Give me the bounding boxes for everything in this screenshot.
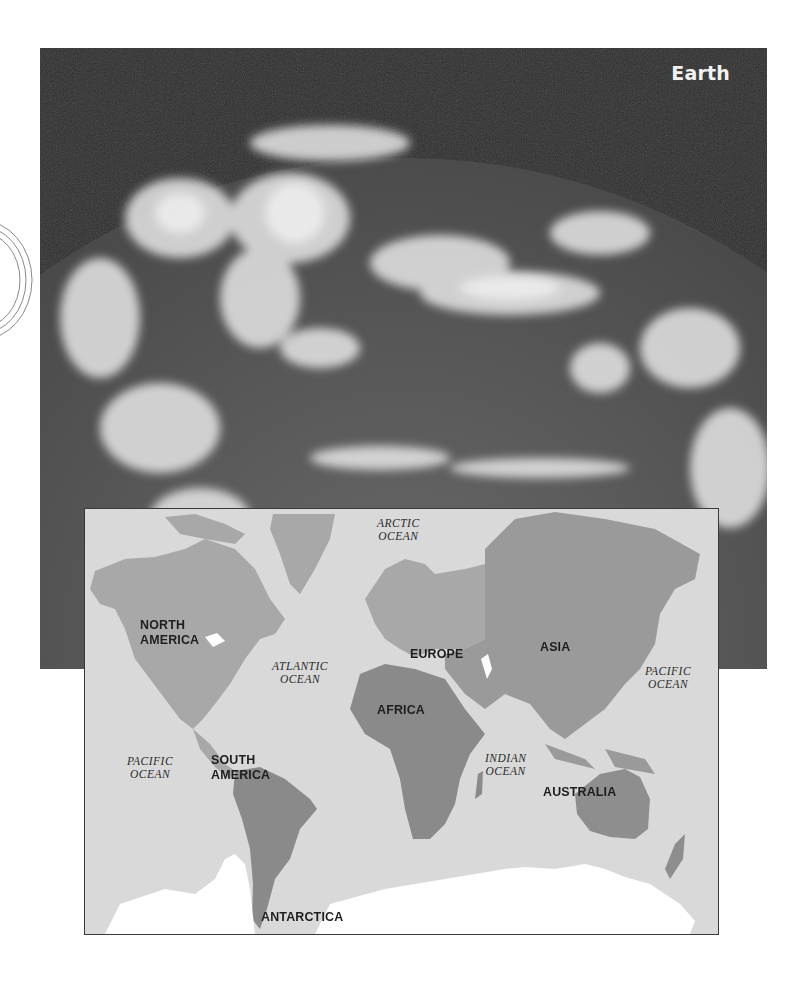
label-asia: ASIA [540, 639, 570, 654]
greenland-shape [270, 514, 335, 594]
label-europe: EUROPE [410, 646, 464, 661]
label-africa: AFRICA [377, 702, 425, 717]
label-australia: AUSTRALIA [543, 784, 616, 799]
antarctica-shape [105, 854, 255, 934]
label-south-america: SOUTH AMERICA [211, 752, 270, 782]
europe-shape [365, 559, 485, 657]
photo-title: Earth [671, 62, 730, 84]
label-indian-ocean: INDIAN OCEAN [485, 752, 526, 778]
australia-shape [575, 769, 650, 839]
world-map: NORTH AMERICA EUROPE ASIA AFRICA SOUTH A… [84, 508, 719, 935]
label-arctic-ocean: ARCTIC OCEAN [377, 517, 420, 543]
world-map-graphic [85, 509, 718, 934]
label-atlantic-ocean: ATLANTIC OCEAN [272, 660, 328, 686]
label-antarctica: ANTARCTICA [261, 909, 343, 924]
label-north-america: NORTH AMERICA [140, 617, 199, 647]
label-pacific-ocean-west: PACIFIC OCEAN [127, 755, 173, 781]
antarctica-shape-east [315, 864, 695, 934]
label-pacific-ocean-east: PACIFIC OCEAN [645, 665, 691, 691]
decorative-rings [0, 210, 40, 350]
